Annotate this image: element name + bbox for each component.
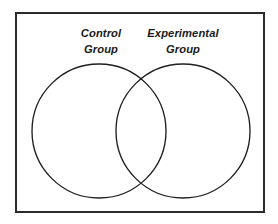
- control-group-label-line2: Group: [84, 43, 118, 55]
- control-group-label-line1: Control: [81, 27, 122, 39]
- experimental-group-label-line1: Experimental: [147, 27, 219, 39]
- experimental-group-label-line2: Group: [166, 43, 200, 55]
- venn-diagram-figure: Control Group Experimental Group: [0, 0, 278, 224]
